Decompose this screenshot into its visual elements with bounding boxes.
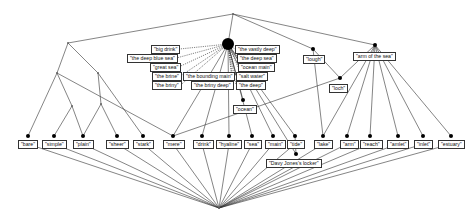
sea-synonym-lattice-diagram: "big drink""the deep blue sea""great sea… <box>0 0 476 223</box>
hub-synonym-label[interactable]: "the vastly deep" <box>235 45 280 54</box>
edge <box>98 73 143 136</box>
concept-node[interactable] <box>71 105 73 107</box>
hub-synonym-label[interactable]: "the deep" <box>236 81 266 90</box>
bottom-node-label[interactable]: "reach" <box>360 140 383 149</box>
bottom-node-label[interactable]: "hyaline" <box>216 140 242 149</box>
edge-bottom <box>219 144 323 208</box>
edge-hub <box>202 44 228 136</box>
edge <box>54 106 72 136</box>
upper-node-dot[interactable] <box>373 43 377 47</box>
bottom-node-label[interactable]: "main" <box>265 140 286 149</box>
bottom-node-label[interactable]: "amlet" <box>387 140 409 149</box>
edge-hub <box>228 44 229 136</box>
edge-hub-label <box>179 44 228 67</box>
bottom-node-dot[interactable] <box>449 134 453 138</box>
bottom-node-dot[interactable] <box>115 134 119 138</box>
edge-top <box>68 14 233 43</box>
edge-bottom <box>219 144 423 208</box>
hub-synonym-label[interactable]: "great sea" <box>150 63 181 72</box>
upper-node-dot[interactable] <box>338 76 342 80</box>
concept-node[interactable] <box>56 72 58 74</box>
hub-synonym-label[interactable]: "salt water" <box>236 72 268 81</box>
edge <box>57 73 72 106</box>
edge-bottom <box>219 166 296 208</box>
bottom-node-dot[interactable] <box>421 134 425 138</box>
edge-bottom <box>173 144 219 208</box>
concept-node[interactable] <box>67 42 69 44</box>
concept-node[interactable] <box>97 72 99 74</box>
hub-synonym-label[interactable]: "the brine" <box>152 72 182 81</box>
hub-synonym-label[interactable]: "big drink" <box>151 45 180 54</box>
bottom-node-dot[interactable] <box>52 134 56 138</box>
bottom-node-dot[interactable] <box>171 134 175 138</box>
edge-bottom <box>202 144 219 208</box>
edge <box>98 73 101 104</box>
bottom-node-label[interactable]: "sea" <box>244 140 262 149</box>
edge <box>57 43 68 73</box>
bottom-node-label[interactable]: "tide" <box>287 140 305 149</box>
edge-hub-label <box>180 44 228 49</box>
bottom-node-dot[interactable] <box>227 134 231 138</box>
hub-synonym-label[interactable]: "the deep sea" <box>237 54 277 63</box>
bottom-node-label[interactable]: "inlet" <box>414 140 433 149</box>
edge-bottom <box>117 144 219 208</box>
edge-bottom <box>143 144 219 208</box>
hub-synonym-label[interactable]: "the briny deep" <box>191 81 234 90</box>
upper-node-label[interactable]: "loch" <box>329 84 348 93</box>
edge <box>28 73 57 136</box>
edge-hub-label <box>176 44 228 58</box>
bottom-node-dot[interactable] <box>141 134 145 138</box>
bottom-node-dot[interactable] <box>368 134 372 138</box>
upper-node-dot[interactable] <box>311 47 315 51</box>
hub-synonym-label[interactable]: "the bounding main" <box>183 72 235 81</box>
concept-node[interactable] <box>218 207 220 209</box>
edge <box>68 43 98 73</box>
bottom-node-label[interactable]: "drink" <box>193 140 214 149</box>
bottom-node-label[interactable]: "stark" <box>133 140 154 149</box>
bottom-node-dot[interactable] <box>271 134 275 138</box>
edge-bottom <box>219 144 451 208</box>
hub-synonym-label[interactable]: "ocean main" <box>238 63 275 72</box>
bottom-node-label[interactable]: "estuary" <box>438 140 465 149</box>
bottom-node-dot[interactable] <box>321 134 325 138</box>
bottom-node-dot[interactable] <box>293 134 297 138</box>
edge-top <box>233 14 313 49</box>
upper-node-dot[interactable] <box>241 98 245 102</box>
bottom-node-dot[interactable] <box>250 134 254 138</box>
bottom-node-label[interactable]: "simple" <box>42 140 67 149</box>
upper-node-label[interactable]: "lough" <box>303 55 325 64</box>
hub-synonym-label[interactable]: "the deep blue sea" <box>127 54 178 63</box>
davy-node-dot[interactable] <box>294 152 298 156</box>
concept-node[interactable] <box>232 13 234 15</box>
edge-top <box>233 14 375 45</box>
bottom-node-dot[interactable] <box>396 134 400 138</box>
hub-node[interactable] <box>222 38 234 50</box>
edge-hub <box>173 44 228 136</box>
davy-jones-label[interactable]: "Davy Jones's locker" <box>266 159 322 168</box>
bottom-node-dot[interactable] <box>81 134 85 138</box>
edge-bottom <box>83 144 219 208</box>
edge-bottom <box>219 144 347 208</box>
edge <box>101 104 117 136</box>
bottom-node-dot[interactable] <box>345 134 349 138</box>
edge <box>83 104 101 136</box>
bottom-node-label[interactable]: "plain" <box>73 140 94 149</box>
bottom-node-label[interactable]: "arm" <box>340 140 359 149</box>
bottom-node-label[interactable]: "mere" <box>163 140 185 149</box>
bottom-node-dot[interactable] <box>26 134 30 138</box>
upper-node-label[interactable]: "ocean" <box>233 105 257 114</box>
bottom-node-dot[interactable] <box>200 134 204 138</box>
edge <box>72 106 83 136</box>
edge-bottom <box>28 144 219 208</box>
bottom-node-label[interactable]: "bare" <box>18 140 38 149</box>
hub-synonym-label[interactable]: "the briny" <box>152 81 182 90</box>
edge-bottom <box>54 144 219 208</box>
upper-node-label[interactable]: "arm of the sea" <box>353 52 396 61</box>
bottom-node-label[interactable]: "lake" <box>314 140 333 149</box>
bottom-node-label[interactable]: "sheer" <box>106 140 129 149</box>
concept-node[interactable] <box>100 103 102 105</box>
